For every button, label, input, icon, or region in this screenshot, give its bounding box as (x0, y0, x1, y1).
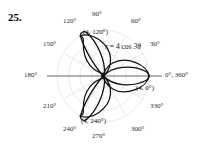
equation-function: cos (122, 42, 132, 51)
angle-label-0-360: 0°, 360° (165, 72, 188, 79)
equation-coefficient: 4 (116, 42, 120, 51)
angle-label-60: 60° (131, 18, 141, 25)
pole-point (101, 74, 105, 78)
point-label-4-0: (4, 0°) (136, 85, 154, 92)
equation-argument: 3θ (133, 42, 140, 51)
angle-label-300: 300° (131, 126, 144, 133)
point-label-4-240: (4, 240°) (81, 118, 106, 125)
angle-label-150: 150° (43, 41, 56, 48)
equation-equals: = (110, 42, 114, 51)
equation-r: r (105, 42, 108, 51)
figure-page: 25. (0, 0, 201, 152)
angle-label-330: 330° (150, 103, 163, 110)
point-label-4-120: (4, 120°) (83, 29, 108, 36)
angle-label-180: 180° (24, 72, 37, 79)
angle-label-120: 120° (63, 18, 76, 25)
angle-label-240: 240° (63, 126, 76, 133)
angle-label-210: 210° (43, 103, 56, 110)
angle-label-90: 90° (92, 11, 102, 18)
equation-label: r = 4 cos 3θ (105, 43, 141, 51)
angle-label-270: 270° (92, 133, 105, 140)
angle-label-30: 30° (150, 41, 160, 48)
